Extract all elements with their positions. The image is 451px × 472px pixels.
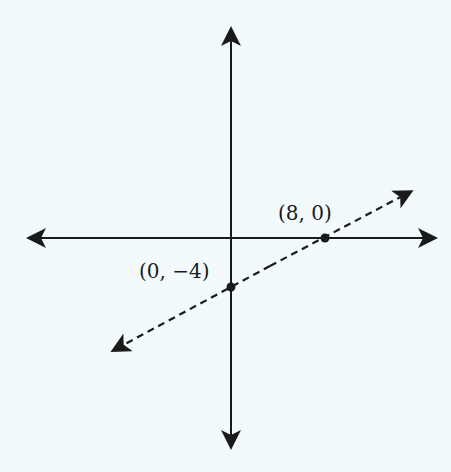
point-y-intercept <box>227 283 236 292</box>
diagram-canvas: (8, 0) (0, −4) <box>0 0 451 472</box>
point-x-intercept <box>321 234 330 243</box>
label-x-intercept: (8, 0) <box>278 201 332 225</box>
coordinate-plane-diagram: (8, 0) (0, −4) <box>0 0 451 472</box>
label-y-intercept: (0, −4) <box>139 259 210 283</box>
